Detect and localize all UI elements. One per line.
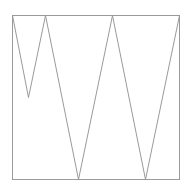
zigzag-diagram bbox=[0, 0, 191, 189]
zigzag-line bbox=[13, 16, 180, 180]
